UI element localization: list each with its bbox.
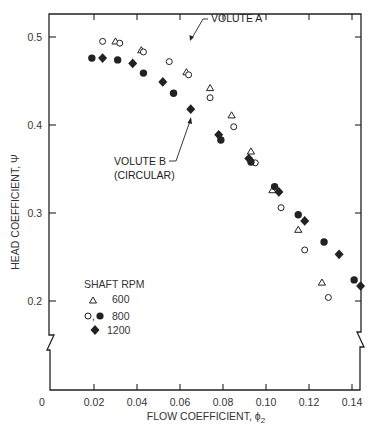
x-axis-title: FLOW COEFFICIENT, ϕ2 [147, 410, 266, 425]
open-circle-marker [325, 294, 331, 300]
filled-diamond-marker [128, 59, 137, 69]
y-tick-label: 0.3 [27, 207, 42, 219]
open-circle-marker [166, 59, 172, 65]
annotation-volute-a: VOLUTE A [190, 12, 263, 41]
x-tick-label: 0.02 [84, 396, 105, 408]
svg-text:VOLUTE B: VOLUTE B [114, 155, 166, 167]
y-tick-label: 0.5 [27, 31, 42, 43]
filled-circle-marker [114, 56, 121, 63]
filled-diamond-marker [335, 250, 344, 260]
x-tick-labels: 00.020.040.060.080.100.120.14 [39, 396, 362, 408]
y-axis-title: HEAD COEFFICIENT, Ψ [9, 154, 21, 270]
legend: SHAFT RPM 600 , 800 1200 [84, 278, 144, 336]
open-triangle-icon [90, 297, 97, 303]
open-circle-icon [85, 313, 91, 319]
svg-text:600: 600 [112, 293, 130, 305]
open-triangle-marker [318, 279, 325, 285]
open-circle-marker [302, 247, 308, 253]
svg-text:VOLUTE A: VOLUTE A [211, 12, 262, 24]
x-tick-label: 0.06 [170, 396, 191, 408]
annotation-arrow-volute-a [192, 19, 208, 38]
x-tick-label: 0.08 [213, 396, 234, 408]
y-tick-label: 0.2 [27, 295, 42, 307]
svg-text:(CIRCULAR): (CIRCULAR) [114, 169, 175, 181]
svg-text:,: , [92, 310, 95, 322]
x-tick-label: 0.10 [256, 396, 277, 408]
filled-diamond-marker [356, 281, 365, 291]
open-circle-marker [207, 95, 213, 101]
open-circle-marker [278, 205, 284, 211]
open-circle-marker [231, 124, 237, 130]
filled-circle-marker [140, 69, 147, 76]
filled-circle-marker [350, 276, 357, 283]
filled-diamond-marker [98, 53, 107, 63]
filled-circle-marker [295, 211, 302, 218]
x-tick-label: 0.12 [299, 396, 320, 408]
svg-text:1200: 1200 [107, 324, 131, 336]
filled-diamond-marker [300, 216, 309, 226]
y-tick-labels: 0.50.40.30.2 [27, 31, 42, 307]
open-circle-marker [186, 72, 192, 78]
legend-item-600: 600 [90, 293, 130, 305]
filled-diamond-marker [158, 77, 167, 87]
x-tick-label: 0.14 [342, 396, 363, 408]
open-circle-marker [100, 38, 106, 44]
open-triangle-marker [295, 226, 302, 232]
legend-item-1200: 1200 [91, 324, 131, 336]
open-circle-marker [140, 49, 146, 55]
legend-item-800: , 800 [85, 310, 130, 322]
open-triangle-marker [247, 148, 254, 154]
annotation-volute-b: VOLUTE B (CIRCULAR) [114, 117, 192, 181]
open-triangle-marker [207, 85, 214, 91]
filled-diamond-marker [186, 104, 195, 114]
legend-title: SHAFT RPM [84, 278, 144, 290]
open-circle-marker [117, 40, 123, 46]
y-tick-label: 0.4 [27, 119, 42, 131]
x-tick-label: 0 [39, 396, 45, 408]
filled-circle-marker [88, 54, 95, 61]
filled-diamond-icon [91, 325, 100, 335]
svg-text:800: 800 [112, 310, 130, 322]
filled-circle-marker [170, 90, 177, 97]
annotation-arrow-volute-b [169, 121, 190, 161]
open-triangle-marker [228, 112, 235, 118]
scatter-chart: 00.020.040.060.080.100.120.14 0.50.40.30… [0, 0, 374, 431]
x-tick-label: 0.04 [127, 396, 148, 408]
filled-circle-marker [320, 238, 327, 245]
filled-circle-icon [96, 312, 103, 319]
